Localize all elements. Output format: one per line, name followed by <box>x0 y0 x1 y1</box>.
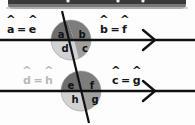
angle-symbol-c: c <box>112 75 119 86</box>
angle-label-f: f <box>86 81 98 91</box>
cropped-toolbar-strip <box>6 0 188 9</box>
angle-symbol-f: f <box>122 24 127 35</box>
equals-sign: = <box>108 24 122 35</box>
angle-label-g: g <box>89 95 101 105</box>
equation-b-equals-f: b=f <box>100 24 127 35</box>
equation-a-equals-e: a=e <box>7 24 37 35</box>
equals-sign: = <box>31 75 45 86</box>
angle-label-h: h <box>69 95 81 105</box>
equation-c-equals-g: c=g <box>112 75 141 86</box>
angle-label-e: e <box>65 81 77 91</box>
figure-canvas: a b d c e f h g a=e b=f d=h c=g <box>0 0 195 125</box>
angle-symbol-b: b <box>100 24 108 35</box>
angle-symbol-d: d <box>23 75 31 86</box>
angle-label-a: a <box>55 30 67 40</box>
angle-symbol-h: h <box>45 75 53 86</box>
angle-symbol-a: a <box>7 24 15 35</box>
angle-label-b: b <box>76 30 88 40</box>
equation-d-equals-h: d=h <box>23 75 53 86</box>
equals-sign: = <box>15 24 29 35</box>
equals-sign: = <box>119 75 133 86</box>
angle-symbol-g: g <box>133 75 141 86</box>
angle-label-c: c <box>79 44 91 54</box>
angle-label-d: d <box>59 44 71 54</box>
angle-symbol-e: e <box>29 24 37 35</box>
